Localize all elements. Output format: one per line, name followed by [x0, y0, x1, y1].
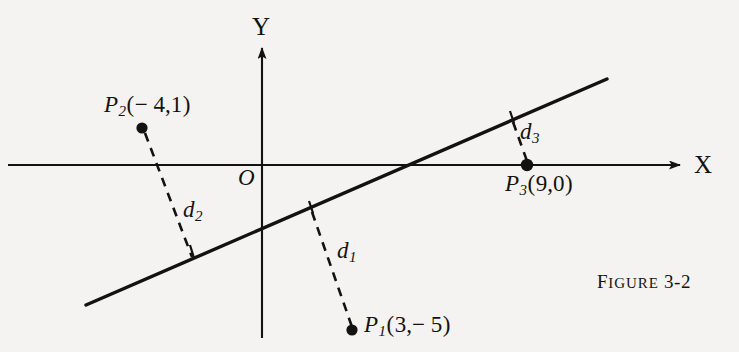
- x-axis-label: X: [694, 152, 713, 177]
- point-label-P3: P3(9,0): [505, 172, 573, 198]
- point-label-P1: P1(3,− 5): [364, 313, 451, 339]
- point-label-P1-subscript: 1: [379, 323, 387, 339]
- figure-caption-word: IGURE: [608, 275, 659, 291]
- point-label-P2-close-paren: ): [183, 92, 191, 117]
- figure-drawing: [0, 0, 739, 352]
- point-label-P3-coords: 9,0: [536, 171, 565, 196]
- origin-label: O: [238, 166, 255, 189]
- point-label-P1-coords: 3,− 5: [395, 312, 442, 337]
- point-label-P3-name: P: [505, 171, 519, 196]
- distance-label-d2: d2: [183, 198, 203, 224]
- figure-caption-number: 3-2: [664, 271, 691, 292]
- point-label-P3-open-paren: (: [528, 171, 536, 196]
- point-dot-P3: [521, 159, 533, 171]
- point-label-P1-close-paren: ): [443, 312, 451, 337]
- point-label-P2: P2(− 4,1): [104, 93, 191, 119]
- distance-label-d2-subscript: 2: [195, 208, 203, 224]
- distance-label-d1-subscript: 1: [349, 249, 357, 265]
- distance-label-d1: d1: [337, 239, 357, 265]
- figure-3-2: Y X O P2(− 4,1) P1(3,− 5) P3(9,0) d1 d2 …: [0, 0, 739, 352]
- distance-label-d3: d3: [520, 120, 540, 146]
- point-label-P1-open-paren: (: [387, 312, 395, 337]
- point-dot-P2: [136, 122, 147, 133]
- distance-segment-d1: [312, 212, 352, 327]
- point-label-P2-name: P: [104, 92, 118, 117]
- point-label-P3-subscript: 3: [520, 182, 528, 198]
- point-label-P2-open-paren: (: [127, 92, 135, 117]
- y-axis-label: Y: [252, 14, 271, 39]
- point-dot-P1: [346, 324, 357, 335]
- distance-label-d3-name: d: [520, 119, 532, 144]
- point-label-P1-name: P: [364, 312, 378, 337]
- point-label-P2-subscript: 2: [119, 103, 127, 119]
- point-label-P3-close-paren: ): [565, 171, 573, 196]
- distance-label-d2-name: d: [183, 197, 195, 222]
- point-label-P2-coords: − 4,1: [135, 92, 182, 117]
- figure-caption-first-letter: F: [597, 271, 608, 292]
- distance-segment-d2: [145, 133, 192, 257]
- figure-caption: FIGURE3-2: [597, 272, 691, 291]
- distance-label-d1-name: d: [337, 238, 349, 263]
- distance-label-d3-subscript: 3: [532, 130, 540, 146]
